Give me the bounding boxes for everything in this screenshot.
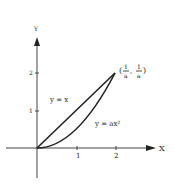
x-axis-label: X [159, 144, 165, 153]
y-tick-label-1: 1 [29, 107, 33, 114]
intersection-point-label: ( 1 a , 1 a ) [119, 63, 146, 79]
point-comma: , [130, 67, 132, 75]
fraction1-numerator: 1 [124, 63, 128, 70]
x-axis-arrow-icon [146, 145, 156, 151]
fraction2-denominator: a [137, 72, 141, 79]
x-tick-label-2: 2 [114, 152, 118, 160]
paren-open: ( [119, 66, 122, 75]
paren-close: ) [143, 66, 146, 75]
line-label: y = x [49, 96, 68, 104]
fraction1-denominator: a [124, 72, 128, 79]
y-axis-label: Y [33, 25, 39, 32]
x-tick-label-1: 1 [76, 152, 80, 160]
graph-canvas: X Y 1 2 1 2 y = x y = ax² ( 1 a , 1 a ) [0, 0, 175, 188]
parabola-label: y = ax² [94, 120, 120, 128]
fraction2-numerator: 1 [137, 63, 141, 70]
y-axis-arrow-icon [34, 37, 40, 46]
line-y-equals-x [37, 73, 115, 148]
y-tick-label-2: 2 [29, 69, 33, 76]
